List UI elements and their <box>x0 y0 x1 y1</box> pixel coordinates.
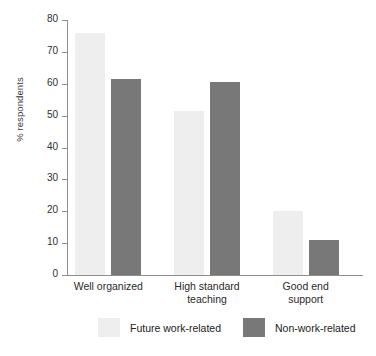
y-axis-tick-label: 10 <box>30 236 58 247</box>
y-axis-tick: 80 <box>62 20 67 21</box>
y-axis-tick-label: 30 <box>30 172 58 183</box>
y-axis-tick-label: 0 <box>30 268 58 279</box>
legend-swatch-icon <box>243 318 265 337</box>
legend-swatch-icon <box>98 318 120 337</box>
bar <box>174 111 204 275</box>
bar <box>75 33 105 275</box>
bar <box>111 79 141 275</box>
y-axis-tick-label: 70 <box>30 45 58 56</box>
x-axis-category-label: High standard teaching <box>152 280 262 306</box>
bar <box>309 240 339 275</box>
y-axis-tick-label: 80 <box>30 13 58 24</box>
y-axis-tick-label: 60 <box>30 77 58 88</box>
y-axis-tick: 60 <box>62 84 67 85</box>
x-axis-category-label: Well organized <box>53 280 163 293</box>
y-axis-tick: 30 <box>62 179 67 180</box>
legend-label: Future work-related <box>130 322 221 334</box>
y-axis-tick: 10 <box>62 243 67 244</box>
legend-item[interactable]: Non-work-related <box>243 318 356 337</box>
bar <box>210 82 240 275</box>
y-axis-tick-label: 40 <box>30 141 58 152</box>
chart-legend: Future work-relatedNon-work-related <box>0 318 376 348</box>
legend-label: Non-work-related <box>275 322 356 334</box>
x-axis-line <box>67 275 363 276</box>
plot-area: 01020304050607080 Well organizedHigh sta… <box>67 20 363 276</box>
y-axis-tick: 0 <box>62 275 67 276</box>
x-axis-category-label: Good end support <box>251 280 361 306</box>
legend-item[interactable]: Future work-related <box>98 318 221 337</box>
bar-chart: % respondents 01020304050607080 Well org… <box>0 0 376 356</box>
y-axis-tick-label: 20 <box>30 204 58 215</box>
y-axis-title: % respondents <box>14 55 25 165</box>
y-axis-tick: 50 <box>62 116 67 117</box>
y-axis-tick: 40 <box>62 148 67 149</box>
y-axis-tick: 70 <box>62 52 67 53</box>
y-axis-tick-label: 50 <box>30 109 58 120</box>
y-axis-tick: 20 <box>62 211 67 212</box>
bar <box>273 211 303 275</box>
y-axis-line <box>67 20 68 276</box>
